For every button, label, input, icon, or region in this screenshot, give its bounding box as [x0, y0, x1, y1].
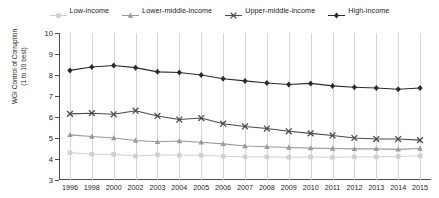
y-axis-tick-label: 6 [33, 113, 53, 122]
data-point-diamond [133, 65, 138, 71]
legend-label: High-income [348, 6, 389, 15]
y-axis-tick-mark [55, 180, 59, 181]
x-axis-tick-label: 2014 [390, 183, 406, 192]
data-point-square [199, 153, 204, 158]
data-point-square [374, 155, 379, 160]
y-axis-title: WGI Control of Corruption (1 to 10 best) [11, 5, 28, 129]
legend-item-low-income[interactable]: Low-income [50, 6, 109, 15]
data-point-square [308, 155, 313, 160]
data-point-diamond [374, 85, 379, 91]
data-point-square [286, 155, 291, 160]
data-point-square [265, 155, 270, 160]
y-axis-tick-label: 3 [33, 176, 53, 185]
series-line [70, 66, 420, 90]
x-axis-tick-label: 1998 [84, 183, 100, 192]
x-axis-tick-label: 2011 [325, 183, 340, 192]
x-axis-tick-label: 2007 [237, 183, 253, 192]
data-point-diamond [330, 83, 335, 89]
legend-item-upper-middle-income[interactable]: Upper-middle-income [225, 6, 315, 15]
y-axis-tick-label: 8 [33, 71, 53, 80]
data-point-square [418, 154, 423, 159]
y-axis-tick-label: 9 [33, 50, 53, 59]
plot-area: 345678910 199619982000200220032004200520… [59, 33, 431, 180]
data-point-diamond [242, 78, 247, 84]
x-axis-tick-label: 2000 [106, 183, 122, 192]
data-point-square [111, 152, 116, 157]
legend-label: Low-income [70, 6, 109, 15]
legend-item-high-income[interactable]: High-income [328, 6, 389, 15]
data-point-diamond [286, 81, 291, 87]
y-axis-tick-label: 10 [33, 29, 53, 38]
data-point-square [56, 13, 61, 18]
y-axis-title-line2: (1 to 10 best) [19, 5, 28, 129]
data-point-square [396, 154, 401, 159]
legend-item-lower-middle-income[interactable]: Lower-middle-income [122, 6, 212, 15]
data-point-diamond [155, 69, 160, 75]
x-axis-tick-label: 2008 [259, 183, 275, 192]
data-point-square [68, 150, 73, 155]
data-point-square [155, 153, 160, 158]
y-axis-title-line1: WGI Control of Corruption [11, 5, 20, 129]
series-layer [59, 33, 431, 180]
series-upper-middle-income [67, 108, 423, 143]
data-point-diamond [396, 86, 401, 92]
data-point-square [177, 153, 182, 158]
x-axis-tick-label: 2013 [368, 183, 384, 192]
x-axis-tick-label: 2004 [171, 183, 187, 192]
y-axis-tick-label: 4 [33, 155, 53, 164]
data-point-diamond [417, 85, 422, 91]
legend-label: Upper-middle-income [245, 6, 315, 15]
x-axis-tick-label: 2003 [149, 183, 165, 192]
x-axis-tick-label: 2012 [346, 183, 362, 192]
x-marker-icon [225, 6, 242, 15]
x-axis-tick-label: 2002 [128, 183, 144, 192]
data-point-diamond [308, 80, 313, 86]
triangle-marker-icon [122, 6, 139, 15]
data-point-diamond [264, 80, 269, 86]
data-point-diamond [199, 72, 204, 78]
data-point-square [90, 152, 95, 157]
series-low-income [68, 150, 423, 159]
data-point-diamond [89, 64, 94, 70]
data-point-diamond [111, 63, 116, 69]
data-point-square [352, 155, 357, 160]
data-point-diamond [221, 76, 226, 82]
x-axis-tick-label: 2006 [215, 183, 231, 192]
x-axis-tick-label: 2015 [412, 183, 428, 192]
series-lower-middle-income [67, 132, 423, 152]
chart-container: Low-incomeLower-middle-incomeUpper-middl… [0, 0, 439, 198]
x-axis-tick-label: 2010 [303, 183, 319, 192]
square-marker-icon [50, 6, 67, 15]
data-point-diamond [67, 67, 72, 73]
data-point-diamond [352, 84, 357, 90]
y-axis-tick-label: 7 [33, 92, 53, 101]
data-point-square [221, 154, 226, 159]
diamond-marker-icon [328, 6, 345, 15]
data-point-diamond [334, 12, 339, 18]
chart-legend: Low-incomeLower-middle-incomeUpper-middl… [0, 3, 439, 17]
legend-label: Lower-middle-income [142, 6, 212, 15]
x-axis-tick-label: 2009 [281, 183, 297, 192]
data-point-square [330, 155, 335, 160]
series-high-income [67, 63, 422, 93]
data-point-square [243, 155, 248, 160]
series-line [70, 111, 420, 140]
x-axis-tick-label: 2005 [193, 183, 209, 192]
data-point-square [133, 154, 138, 159]
x-axis-tick-label: 1996 [62, 183, 78, 192]
y-axis-tick-label: 5 [33, 134, 53, 143]
data-point-diamond [177, 69, 182, 75]
